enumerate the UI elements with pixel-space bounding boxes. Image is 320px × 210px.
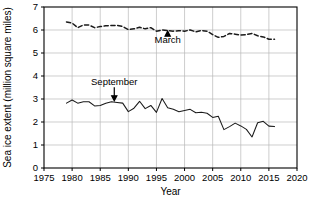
annotation-arrowhead-march	[165, 31, 170, 36]
x-tick-label: 1995	[146, 172, 167, 183]
x-tick-label: 2020	[286, 172, 307, 183]
x-tick-label: 2000	[174, 172, 195, 183]
y-tick-label: 7	[33, 1, 38, 12]
x-tick-label: 2010	[230, 172, 251, 183]
x-tick-label: 1980	[62, 172, 83, 183]
x-tick-label: 1985	[90, 172, 111, 183]
series-line-september	[66, 99, 274, 137]
y-tick-label: 6	[33, 24, 38, 35]
y-tick-label: 2	[33, 116, 38, 127]
x-tick-label: 1990	[118, 172, 139, 183]
x-tick-label: 2005	[202, 172, 223, 183]
x-tick-label: 2015	[258, 172, 279, 183]
annotation-arrowhead-september	[112, 96, 117, 101]
y-tick-label: 4	[33, 70, 38, 81]
annotation-label-september: September	[91, 76, 137, 87]
y-tick-label: 5	[33, 47, 38, 58]
y-tick-label: 3	[33, 93, 38, 104]
y-axis-title: Sea ice extent (million square miles)	[2, 7, 13, 168]
sea-ice-extent-chart: 0123456719751980198519901995200020052010…	[0, 0, 320, 210]
x-axis-title: Year	[160, 186, 181, 197]
y-tick-label: 1	[33, 139, 38, 150]
x-tick-label: 1975	[33, 172, 54, 183]
